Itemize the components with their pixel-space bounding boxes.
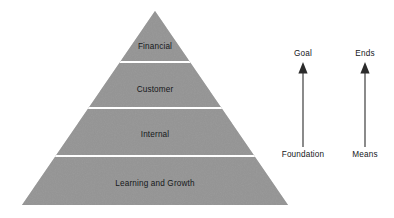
ends-arrow-top-label: Ends: [355, 50, 374, 58]
pyramid-diagram: Financial Customer Internal Learning and…: [0, 0, 394, 218]
goal-arrow-bottom-label: Foundation: [282, 151, 324, 159]
ends-arrow-head-icon: [360, 62, 369, 74]
tier-label-learning-and-growth: Learning and Growth: [115, 180, 194, 188]
goal-arrow: [298, 62, 307, 147]
pyramid-graphic: [0, 0, 394, 218]
ends-arrow: [360, 62, 369, 147]
tier-label-customer: Customer: [137, 86, 174, 94]
goal-arrow-head-icon: [298, 62, 307, 74]
tier-label-financial: Financial: [138, 43, 172, 51]
tier-label-internal: Internal: [141, 131, 170, 139]
ends-arrow-bottom-label: Means: [352, 151, 377, 159]
goal-arrow-top-label: Goal: [294, 50, 312, 58]
